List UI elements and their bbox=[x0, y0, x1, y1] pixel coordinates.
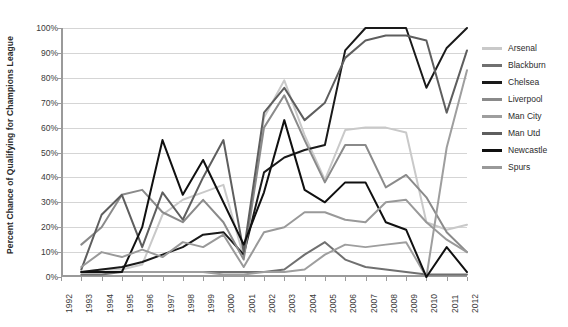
x-tick-label: 1994 bbox=[106, 294, 115, 313]
x-tick-label: 2009 bbox=[410, 294, 419, 313]
x-tick-label: 1997 bbox=[167, 294, 176, 313]
legend-item-spurs[interactable]: Spurs bbox=[482, 159, 568, 176]
x-tick-label: 2006 bbox=[349, 294, 358, 313]
legend-swatch-icon bbox=[482, 149, 502, 152]
plot-area bbox=[61, 28, 467, 277]
x-axis-tick-labels: 1992199319941995199619971998199920002001… bbox=[61, 281, 467, 327]
legend-item-man-utd[interactable]: Man Utd bbox=[482, 125, 568, 142]
x-tick-label: 1999 bbox=[207, 294, 216, 313]
y-tick-label: 30% bbox=[18, 198, 58, 207]
legend-swatch-icon bbox=[482, 47, 502, 50]
y-tick-label: 70% bbox=[18, 98, 58, 107]
legend-item-newcastle[interactable]: Newcastle bbox=[482, 142, 568, 159]
y-tick-label: 0% bbox=[18, 273, 58, 282]
legend-item-blackburn[interactable]: Blackburn bbox=[482, 57, 568, 74]
y-tick-label: 20% bbox=[18, 223, 58, 232]
legend-label: Man City bbox=[508, 112, 542, 121]
x-tick-label: 1993 bbox=[85, 294, 94, 313]
y-tick-label: 40% bbox=[18, 173, 58, 182]
legend-label: Spurs bbox=[508, 163, 530, 172]
legend-swatch-icon bbox=[482, 64, 502, 67]
y-axis-title-text: Percent Chance of Qualifying for Champio… bbox=[5, 36, 15, 254]
legend-swatch-icon bbox=[482, 115, 502, 118]
legend-swatch-icon bbox=[482, 166, 502, 169]
y-axis-tick-labels: 0%10%20%30%40%50%60%70%80%90%100% bbox=[18, 22, 58, 278]
y-tick-label: 50% bbox=[18, 148, 58, 157]
legend-swatch-icon bbox=[482, 81, 502, 84]
y-tick-label: 100% bbox=[18, 24, 58, 33]
x-tick-label: 2004 bbox=[309, 294, 318, 313]
x-tick-label: 1995 bbox=[126, 294, 135, 313]
x-tick-label: 2005 bbox=[329, 294, 338, 313]
y-tick-label: 10% bbox=[18, 248, 58, 257]
x-tick-label: 1996 bbox=[146, 294, 155, 313]
x-tick-label: 2010 bbox=[430, 294, 439, 313]
x-tick-label: 2008 bbox=[390, 294, 399, 313]
legend-item-liverpool[interactable]: Liverpool bbox=[482, 91, 568, 108]
legend-swatch-icon bbox=[482, 98, 502, 101]
x-tick-label: 2001 bbox=[248, 294, 257, 313]
legend-label: Man Utd bbox=[508, 129, 540, 138]
line-chart: Percent Chance of Qualifying for Champio… bbox=[0, 0, 568, 327]
legend-item-chelsea[interactable]: Chelsea bbox=[482, 74, 568, 91]
legend-label: Newcastle bbox=[508, 146, 547, 155]
legend-swatch-icon bbox=[482, 132, 502, 135]
y-tick-label: 90% bbox=[18, 49, 58, 58]
x-tick-label: 2011 bbox=[451, 295, 460, 313]
legend-label: Blackburn bbox=[508, 61, 546, 70]
legend-label: Chelsea bbox=[508, 78, 539, 87]
y-axis-title: Percent Chance of Qualifying for Champio… bbox=[0, 0, 20, 290]
legend-item-arsenal[interactable]: Arsenal bbox=[482, 40, 568, 57]
x-tick-label: 1992 bbox=[65, 294, 74, 313]
legend-label: Arsenal bbox=[508, 44, 537, 53]
legend-label: Liverpool bbox=[508, 95, 543, 104]
x-tick-label: 2012 bbox=[471, 294, 480, 313]
series-lines bbox=[61, 28, 467, 277]
y-tick-label: 80% bbox=[18, 74, 58, 83]
x-tick-label: 2002 bbox=[268, 294, 277, 313]
series-line-arsenal bbox=[81, 80, 467, 272]
x-tick-label: 2000 bbox=[227, 294, 236, 313]
y-tick-label: 60% bbox=[18, 123, 58, 132]
x-tick-mark bbox=[467, 277, 468, 281]
legend-item-man-city[interactable]: Man City bbox=[482, 108, 568, 125]
chart-legend: ArsenalBlackburnChelseaLiverpoolMan City… bbox=[482, 40, 568, 176]
x-tick-label: 1998 bbox=[187, 294, 196, 313]
x-tick-label: 2007 bbox=[370, 294, 379, 313]
x-tick-label: 2003 bbox=[288, 294, 297, 313]
